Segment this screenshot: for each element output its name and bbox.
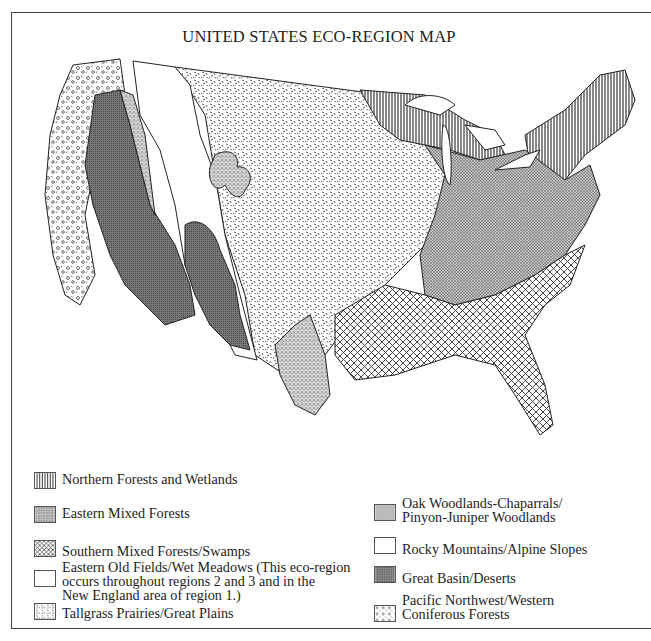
legend-item-tallgrass-prairies: Tallgrass Prairies/Great Plains — [34, 603, 234, 620]
map-title: UNITED STATES ECO-REGION MAP — [0, 27, 638, 47]
legend-label: Great Basin/Deserts — [402, 571, 516, 585]
fine-stipple-swatch-icon — [34, 506, 56, 523]
vertical-lines-swatch-icon — [34, 472, 56, 489]
legend-item-northern-forests: Northern Forests and Wetlands — [34, 472, 238, 489]
legend-item-southern-mixed-forests: Southern Mixed Forests/Swamps — [34, 540, 250, 558]
legend-label: Oak Woodlands-Chaparrals/ Pinyon-Juniper… — [402, 496, 563, 524]
blank-swatch-icon — [34, 570, 56, 587]
circles-swatch-icon — [374, 605, 396, 622]
legend-label: Tallgrass Prairies/Great Plains — [62, 606, 234, 620]
legend-item-great-basin: Great Basin/Deserts — [374, 566, 516, 585]
dashes-swatch-icon — [34, 603, 56, 620]
legend-label: Rocky Mountains/Alpine Slopes — [402, 542, 587, 556]
legend-label: Northern Forests and Wetlands — [62, 472, 238, 486]
legend-item-oak-woodlands: Oak Woodlands-Chaparrals/ Pinyon-Juniper… — [374, 496, 563, 524]
legend-item-pacific-northwest: Pacific Northwest/Western Coniferous For… — [374, 593, 554, 622]
legend-label: Eastern Mixed Forests — [62, 506, 190, 520]
legend-item-rocky-mountains: Rocky Mountains/Alpine Slopes — [374, 537, 587, 556]
legend-item-eastern-mixed-forests: Eastern Mixed Forests — [34, 506, 190, 523]
dense-dark-swatch-icon — [374, 566, 396, 583]
blank-swatch-icon — [374, 537, 396, 554]
legend-label: Southern Mixed Forests/Swamps — [62, 544, 250, 558]
coarse-stipple-swatch-icon — [374, 504, 396, 521]
crosshatch-swatch-icon — [34, 540, 56, 557]
legend-item-eastern-old-fields: Eastern Old Fields/Wet Meadows (This eco… — [34, 560, 350, 602]
us-eco-region-map — [25, 55, 638, 455]
legend-label: Eastern Old Fields/Wet Meadows (This eco… — [62, 560, 350, 602]
legend-label: Pacific Northwest/Western Coniferous For… — [402, 593, 554, 621]
